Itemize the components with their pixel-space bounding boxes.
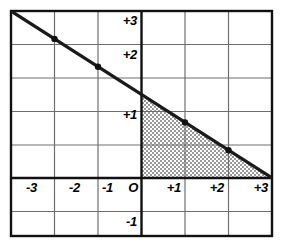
x-tick-label-minus1: -1 [89, 181, 113, 194]
x-tick-label-minus2: -2 [56, 181, 80, 194]
x-tick-label-plus3: +3 [242, 181, 268, 194]
x-tick-label-plus2: +2 [198, 181, 224, 194]
graph-canvas [0, 0, 285, 247]
x-tick-label-plus1: +1 [155, 181, 181, 194]
data-point-marker [95, 63, 101, 69]
x-tick-label-origin: O [114, 181, 138, 194]
y-tick-label-plus1: +1 [111, 108, 137, 121]
y-tick-label-plus2: +2 [111, 48, 137, 61]
data-point-marker [51, 36, 57, 42]
y-tick-label-plus3: +3 [111, 14, 137, 27]
coordinate-graph-figure: -3 -2 -1 O +1 +2 +3 +3 +2 +1 -1 [0, 0, 285, 247]
y-tick-label-minus1: -1 [111, 215, 137, 228]
data-point-marker [225, 147, 231, 153]
data-point-marker [182, 119, 188, 125]
x-tick-label-minus3: -3 [13, 181, 37, 194]
